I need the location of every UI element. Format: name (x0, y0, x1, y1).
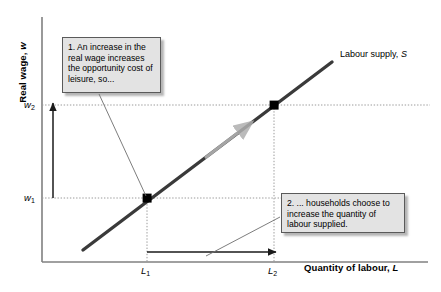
tick-label-L2: L2 (268, 265, 277, 277)
y-axis-title-text: Real wage, (17, 50, 28, 103)
tick-base-w1: w (24, 192, 31, 203)
curve-direction-arrow (205, 122, 252, 158)
point-marker-b (270, 101, 279, 110)
tick-label-w1: w1 (24, 192, 35, 204)
tick-sub-L1: 1 (146, 270, 150, 277)
supply-curve-label-text: Labour supply, (340, 49, 401, 59)
change-arrows (53, 103, 276, 252)
tick-sub-w2: 2 (31, 104, 35, 111)
movement-along-curve-arrow (205, 122, 252, 158)
diagram-canvas: Real wage, w Quantity of labour, L w2 w1… (0, 0, 441, 292)
x-axis-title: Quantity of labour, L (304, 262, 398, 273)
leader-line-callout-2 (206, 217, 280, 256)
tick-label-w2: w2 (24, 99, 35, 111)
annotation-callout-1: 1. An increase in the real wage increase… (62, 37, 161, 93)
tick-label-L1: L1 (141, 265, 150, 277)
annotation-callout-2: 2. ... households choose to increase the… (281, 193, 405, 233)
point-marker-a (143, 194, 152, 203)
leader-line-callout-1 (99, 94, 146, 196)
y-axis-title-variable: w (17, 42, 28, 50)
supply-curve-label-variable: S (401, 49, 407, 59)
x-axis-title-variable: L (393, 262, 399, 273)
supply-curve-label: Labour supply, S (340, 49, 407, 59)
tick-base-w2: w (24, 99, 31, 110)
callout-leader-lines (99, 94, 280, 256)
tick-sub-L2: 2 (273, 270, 277, 277)
x-axis-title-text: Quantity of labour, (304, 262, 393, 273)
tick-sub-w1: 1 (31, 197, 35, 204)
